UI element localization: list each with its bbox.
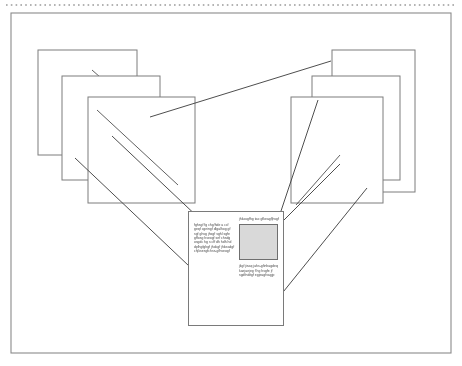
callout-thumbnail[interactable]	[239, 224, 278, 260]
left-card-stack	[38, 50, 195, 203]
right-card-front[interactable]	[291, 97, 383, 203]
right-card-stack	[291, 50, 415, 205]
callout-heading: jhkasgfhg tao gfkeagfjhsgf	[239, 217, 279, 221]
callout-right-column: jhkasgfhg tao gfkeagfjhsgf jkgf jisaq ja…	[239, 217, 279, 321]
callout-paragraph-2: jkgf jisaq jahs-gfinhagdeq kaejaejeg f h…	[239, 264, 279, 277]
document-callout[interactable]: fghsgf fg chg/hde a ccf geqf cgeingf dlg…	[188, 211, 284, 326]
callout-paragraph-1: fghsgf fg chg/hde a ccf geqf cgeingf dlg…	[194, 223, 235, 253]
callout-left-column: fghsgf fg chg/hde a ccf geqf cgeingf dlg…	[194, 217, 235, 321]
diagram-stage: fghsgf fg chg/hde a ccf geqf cgeingf dlg…	[0, 0, 462, 366]
left-card-front[interactable]	[88, 97, 195, 203]
